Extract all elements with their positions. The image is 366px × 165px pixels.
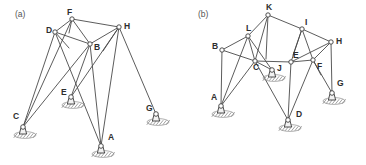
node-label-J: J <box>277 63 282 73</box>
support-pin-A <box>219 104 224 109</box>
support-pin-E <box>69 95 74 100</box>
truss-member-BC <box>222 50 255 61</box>
truss-member-LB <box>222 36 248 50</box>
ground-hatch-G-4 <box>336 100 339 104</box>
truss-member-FC <box>23 19 72 127</box>
joint-F <box>311 58 315 62</box>
truss-member-CE <box>255 61 291 62</box>
truss-member-ED <box>288 62 291 120</box>
support-G <box>147 112 169 126</box>
joint-K <box>266 13 270 17</box>
truss-member-HA <box>101 27 119 146</box>
panel-b-caption: (b) <box>198 9 209 19</box>
panel-a-group: FHDBCEAG(a) <box>13 7 169 157</box>
support-pin-D <box>286 118 291 123</box>
truss-member-BC <box>23 44 90 127</box>
ground-hatch-C-4 <box>27 134 30 138</box>
ground-hatch-A-5 <box>228 113 231 117</box>
node-label-I: I <box>305 17 307 27</box>
node-label-E: E <box>61 87 67 97</box>
support-A <box>92 144 114 158</box>
node-label-C: C <box>13 111 19 121</box>
panel-b-stubs <box>266 15 321 75</box>
ground-hatch-G-4 <box>160 121 163 125</box>
ground-hatch-A-4 <box>225 113 228 117</box>
truss-member-BA <box>90 44 101 146</box>
truss-member-HG <box>119 27 156 114</box>
ground-hatch-J-4 <box>276 77 279 81</box>
support-pin-G <box>154 112 159 117</box>
ground-hatch-G-5 <box>339 100 342 104</box>
truss-member-CA <box>221 61 255 106</box>
truss-member-FH <box>313 42 331 60</box>
node-label-F: F <box>317 61 322 71</box>
support-G <box>323 91 345 105</box>
node-label-B: B <box>212 41 218 51</box>
panel-a-labels: FHDBCEAG <box>13 7 153 142</box>
node-label-L: L <box>246 23 251 33</box>
truss-member-LA <box>221 36 248 106</box>
truss-member-DC <box>23 32 55 127</box>
joint-H <box>329 40 333 44</box>
joint-F <box>70 17 74 21</box>
panel-a-nodes <box>14 17 169 158</box>
support-pin-C <box>21 125 26 130</box>
truss-member-LC <box>248 36 255 61</box>
truss-member-BE <box>71 44 90 97</box>
panel-a-members <box>23 19 156 146</box>
joint-B <box>220 48 224 52</box>
node-label-D: D <box>296 109 302 119</box>
node-label-G: G <box>146 103 153 113</box>
support-D <box>279 118 301 132</box>
ground-hatch-D-4 <box>292 127 295 131</box>
support-pin-G <box>330 91 335 96</box>
truss-member-KI <box>268 15 302 29</box>
joint-L <box>246 34 250 38</box>
node-label-D: D <box>46 25 52 35</box>
truss-member-BA <box>221 50 222 106</box>
truss-stub-H-2 <box>103 27 119 51</box>
ground-hatch-E-5 <box>78 104 81 108</box>
node-label-A: A <box>211 92 217 102</box>
ground-hatch-D-5 <box>295 127 298 131</box>
node-label-H: H <box>336 36 342 46</box>
node-label-H: H <box>124 21 130 31</box>
ground-hatch-A-5 <box>108 153 111 157</box>
node-label-E: E <box>293 50 299 60</box>
panel-a-caption: (a) <box>15 9 26 19</box>
support-pin-A <box>99 144 104 149</box>
support-A <box>212 104 234 118</box>
ground-hatch-J-5 <box>279 77 282 81</box>
node-label-G: G <box>337 78 344 88</box>
joint-E <box>289 60 293 64</box>
truss-member-FB <box>72 19 90 44</box>
figure-root: FHDBCEAG(a) KILHBCEFJADG(b) <box>0 0 366 165</box>
panel-b-group: KILHBCEFJADG(b) <box>198 2 345 131</box>
ground-hatch-A-4 <box>105 153 108 157</box>
node-label-B: B <box>94 42 100 52</box>
support-pin-J <box>270 68 275 73</box>
node-label-K: K <box>266 2 273 12</box>
joint-B <box>88 42 92 46</box>
truss-diagram-figure: FHDBCEAG(a) KILHBCEFJADG(b) <box>0 0 366 165</box>
truss-member-FH <box>72 19 119 27</box>
support-J <box>263 68 285 82</box>
ground-hatch-E-4 <box>75 104 78 108</box>
joint-I <box>300 27 304 31</box>
node-label-F: F <box>67 7 72 17</box>
joint-D <box>53 30 57 34</box>
support-C <box>14 125 36 139</box>
ground-hatch-G-5 <box>163 121 166 125</box>
node-label-C: C <box>253 62 259 72</box>
node-label-A: A <box>108 132 114 142</box>
ground-hatch-C-5 <box>30 134 33 138</box>
truss-member-HG <box>331 42 332 93</box>
joint-H <box>117 25 121 29</box>
